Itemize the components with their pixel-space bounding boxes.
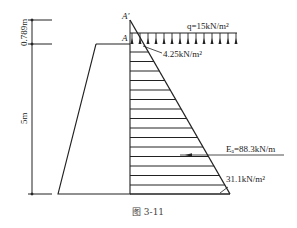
surcharge-load [130, 33, 238, 44]
figure-caption: 图 3-11 [132, 207, 164, 217]
label-bottom-pressure: 31.1kN/m² [226, 174, 265, 184]
label-a: A [121, 33, 128, 43]
dimension-upper: 0.789m [19, 19, 29, 46]
label-surcharge: q=15kN/m² [187, 21, 229, 31]
dimension-lines [28, 19, 52, 195]
leader-bottom-pressure [220, 187, 228, 193]
dimension-lower: 5m [19, 112, 29, 124]
retaining-wall [58, 44, 130, 194]
label-top-pressure: 4.25kN/m² [163, 49, 202, 59]
retaining-wall-diagram: A′ A q=15kN/m² 4.25kN/m² Eₐ=88.3kN/m 31.… [0, 0, 297, 228]
label-a-prime: A′ [121, 11, 130, 21]
pressure-diagram [130, 20, 230, 194]
label-resultant: Eₐ=88.3kN/m [226, 144, 275, 154]
